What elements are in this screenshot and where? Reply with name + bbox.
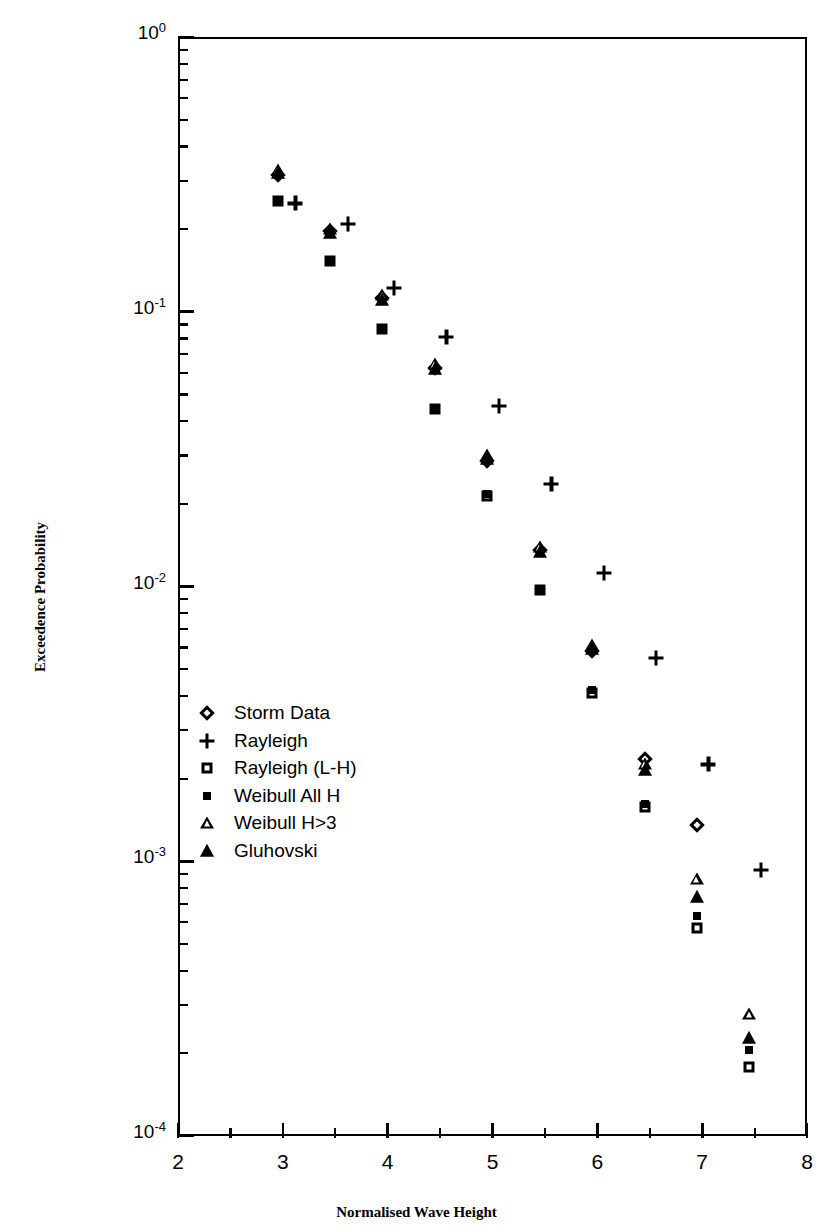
y-tick-minor	[178, 612, 188, 614]
legend-label: Weibull All H	[234, 785, 340, 807]
x-tick-minor	[544, 1128, 546, 1138]
y-tick-minor	[178, 97, 188, 99]
legend-marker-filled-square	[196, 786, 218, 806]
x-tick-label: 7	[677, 1150, 727, 1174]
y-tick-minor	[178, 873, 188, 875]
legend-label: Weibull H>3	[234, 812, 337, 834]
data-point	[480, 451, 494, 464]
y-tick-major	[178, 860, 194, 863]
y-tick-minor	[178, 921, 188, 923]
y-tick-minor	[178, 228, 188, 230]
y-tick-minor	[178, 323, 188, 325]
x-tick-label: 5	[468, 1150, 518, 1174]
x-tick-minor	[229, 1128, 231, 1138]
data-point	[745, 1046, 753, 1054]
x-tick-label: 2	[153, 1150, 203, 1174]
y-tick-minor	[178, 729, 188, 731]
x-axis-title: Normalised Wave Height	[0, 1204, 833, 1221]
legend-marker-filled-triangle	[196, 841, 218, 861]
y-tick-label: 10-4	[86, 1121, 166, 1143]
marker-open-diamond	[199, 705, 215, 721]
data-point	[742, 1008, 756, 1020]
legend-item-gluhovski[interactable]: Gluhovski	[196, 840, 317, 862]
data-point	[533, 544, 547, 557]
y-tick-major	[178, 310, 194, 313]
x-tick-minor	[334, 1128, 336, 1138]
legend-item-weibull-all-h[interactable]: Weibull All H	[196, 785, 340, 807]
y-tick-minor	[178, 454, 188, 456]
y-tick-label: 10-1	[86, 297, 166, 319]
marker-filled-triangle	[200, 843, 214, 856]
y-tick-minor	[178, 970, 188, 972]
data-point	[742, 1031, 756, 1044]
data-point	[588, 686, 596, 694]
y-tick-minor	[178, 646, 188, 648]
legend-marker-open-diamond	[196, 703, 218, 723]
y-tick-minor	[178, 943, 188, 945]
x-tick-major	[596, 1123, 599, 1138]
x-tick-major	[806, 1123, 809, 1138]
y-tick-minor	[178, 372, 188, 374]
y-tick-minor	[178, 49, 188, 51]
legend-label: Gluhovski	[234, 840, 317, 862]
y-tick-minor	[178, 63, 188, 65]
x-tick-minor	[439, 1128, 441, 1138]
legend-label: Rayleigh (L-H)	[234, 757, 356, 779]
y-tick-minor	[178, 598, 188, 600]
data-point	[690, 890, 704, 903]
y-tick-minor	[178, 353, 188, 355]
data-point	[691, 923, 702, 934]
data-point	[274, 197, 282, 205]
x-tick-label: 6	[572, 1150, 622, 1174]
y-axis-title: Exceedence Probability	[32, 521, 49, 671]
x-tick-minor	[754, 1128, 756, 1138]
data-point	[439, 329, 454, 344]
x-tick-major	[491, 1123, 494, 1138]
y-tick-minor	[178, 393, 188, 395]
data-point	[744, 1062, 755, 1073]
legend-marker-open-square	[196, 758, 218, 778]
data-point	[378, 325, 386, 333]
x-tick-label: 8	[782, 1150, 832, 1174]
y-tick-label: 10-3	[86, 846, 166, 868]
data-point	[701, 757, 716, 772]
data-point	[693, 912, 701, 920]
x-tick-major	[386, 1123, 389, 1138]
legend-item-rayleigh[interactable]: Rayleigh	[196, 730, 308, 752]
x-tick-major	[282, 1123, 285, 1138]
y-tick-label: 100	[86, 22, 166, 44]
y-tick-minor	[178, 503, 188, 505]
data-point	[491, 398, 506, 413]
data-point	[428, 362, 442, 375]
data-point	[483, 490, 491, 498]
y-tick-minor	[178, 778, 188, 780]
y-tick-major	[178, 36, 194, 39]
data-point	[375, 293, 389, 306]
y-tick-minor	[178, 695, 188, 697]
data-point	[638, 763, 652, 776]
data-point	[585, 642, 599, 655]
x-tick-label: 3	[258, 1150, 308, 1174]
data-point	[596, 565, 611, 580]
y-tick-minor	[178, 337, 188, 339]
legend-item-storm-data[interactable]: Storm Data	[196, 702, 330, 724]
data-point	[641, 800, 649, 808]
data-point	[326, 257, 334, 265]
y-tick-minor	[178, 668, 188, 670]
legend-marker-plus	[196, 731, 218, 751]
y-tick-minor	[178, 180, 188, 182]
marker-open-triangle	[200, 816, 214, 828]
legend-marker-open-triangle	[196, 813, 218, 833]
chart-canvas: 2345678 10010-110-210-310-4 Storm DataRa…	[0, 0, 833, 1227]
y-tick-label: 10-2	[86, 572, 166, 594]
data-point	[288, 196, 303, 211]
y-tick-minor	[178, 420, 188, 422]
y-tick-major	[178, 1135, 194, 1138]
y-tick-minor	[178, 1052, 188, 1054]
data-point	[753, 862, 768, 877]
legend-item-rayleigh-l-h[interactable]: Rayleigh (L-H)	[196, 757, 356, 779]
y-tick-minor	[178, 628, 188, 630]
legend-item-weibull-h-3[interactable]: Weibull H>3	[196, 812, 337, 834]
y-tick-minor	[178, 145, 188, 147]
x-tick-label: 4	[363, 1150, 413, 1174]
